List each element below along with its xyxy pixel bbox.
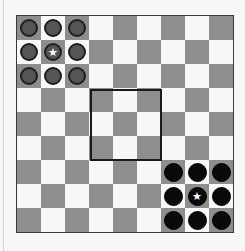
board-cell-r6-c7[interactable] <box>185 160 209 184</box>
gray-piece[interactable] <box>68 43 86 61</box>
board-cell-r3-c6[interactable] <box>161 88 185 112</box>
board-cell-r7-c7[interactable]: ★ <box>185 184 209 208</box>
board-cell-r3-c2[interactable] <box>65 88 89 112</box>
board-cell-r4-c0[interactable] <box>17 112 41 136</box>
window-edge-line <box>3 0 4 251</box>
black-piece-leader[interactable]: ★ <box>188 187 207 206</box>
board-cell-r0-c0[interactable] <box>17 16 41 40</box>
gray-piece[interactable] <box>44 19 62 37</box>
board-cell-r6-c3[interactable] <box>89 160 113 184</box>
gray-piece-leader[interactable]: ★ <box>44 43 62 61</box>
board-cell-r7-c8[interactable] <box>209 184 233 208</box>
board-cell-r5-c0[interactable] <box>17 136 41 160</box>
board-cell-r8-c8[interactable] <box>209 208 233 232</box>
black-piece[interactable] <box>212 187 231 206</box>
black-piece[interactable] <box>164 187 183 206</box>
board-cell-r2-c0[interactable] <box>17 64 41 88</box>
black-piece[interactable] <box>212 211 231 230</box>
gray-piece[interactable] <box>20 19 38 37</box>
board-cell-r6-c1[interactable] <box>41 160 65 184</box>
board-cell-r2-c4[interactable] <box>113 64 137 88</box>
black-piece[interactable] <box>188 211 207 230</box>
board-cell-r3-c1[interactable] <box>41 88 65 112</box>
board-cell-r6-c0[interactable] <box>17 160 41 184</box>
gray-piece[interactable] <box>44 67 62 85</box>
board-cell-r0-c1[interactable] <box>41 16 65 40</box>
board-cell-r7-c4[interactable] <box>113 184 137 208</box>
board-cell-r0-c8[interactable] <box>209 16 233 40</box>
gray-piece[interactable] <box>68 67 86 85</box>
board-cell-r1-c0[interactable] <box>17 40 41 64</box>
board-cell-r3-c8[interactable] <box>209 88 233 112</box>
board-cell-r5-c4[interactable] <box>113 136 137 160</box>
board-cell-r7-c3[interactable] <box>89 184 113 208</box>
board-cell-r3-c0[interactable] <box>17 88 41 112</box>
board-cell-r3-c3[interactable] <box>89 88 113 112</box>
board-cell-r7-c2[interactable] <box>65 184 89 208</box>
board-cell-r7-c1[interactable] <box>41 184 65 208</box>
board-cell-r4-c7[interactable] <box>185 112 209 136</box>
board-cell-r5-c1[interactable] <box>41 136 65 160</box>
board-cell-r4-c2[interactable] <box>65 112 89 136</box>
board-cell-r5-c3[interactable] <box>89 136 113 160</box>
board-cell-r2-c1[interactable] <box>41 64 65 88</box>
board-cell-r0-c6[interactable] <box>161 16 185 40</box>
board-cell-r7-c5[interactable] <box>137 184 161 208</box>
board-cell-r8-c5[interactable] <box>137 208 161 232</box>
black-piece[interactable] <box>212 163 231 182</box>
board-cell-r8-c3[interactable] <box>89 208 113 232</box>
board-cell-r6-c2[interactable] <box>65 160 89 184</box>
board-cell-r5-c2[interactable] <box>65 136 89 160</box>
board-cell-r0-c4[interactable] <box>113 16 137 40</box>
gray-piece[interactable] <box>68 19 86 37</box>
board-cell-r6-c6[interactable] <box>161 160 185 184</box>
gray-piece[interactable] <box>20 43 38 61</box>
board-cell-r5-c6[interactable] <box>161 136 185 160</box>
board-cell-r6-c4[interactable] <box>113 160 137 184</box>
board-cell-r4-c6[interactable] <box>161 112 185 136</box>
board-cell-r1-c5[interactable] <box>137 40 161 64</box>
board-cell-r8-c0[interactable] <box>17 208 41 232</box>
board-cell-r0-c2[interactable] <box>65 16 89 40</box>
board-cell-r2-c8[interactable] <box>209 64 233 88</box>
board-cell-r0-c5[interactable] <box>137 16 161 40</box>
board-cell-r1-c8[interactable] <box>209 40 233 64</box>
board-cell-r5-c7[interactable] <box>185 136 209 160</box>
board-cell-r4-c8[interactable] <box>209 112 233 136</box>
board-cell-r2-c2[interactable] <box>65 64 89 88</box>
board-cell-r3-c5[interactable] <box>137 88 161 112</box>
board-cell-r1-c2[interactable] <box>65 40 89 64</box>
board-cell-r2-c5[interactable] <box>137 64 161 88</box>
board-cell-r7-c0[interactable] <box>17 184 41 208</box>
gray-piece[interactable] <box>20 67 38 85</box>
board-cell-r8-c2[interactable] <box>65 208 89 232</box>
board-cell-r6-c5[interactable] <box>137 160 161 184</box>
board-cell-r2-c3[interactable] <box>89 64 113 88</box>
board-cell-r1-c3[interactable] <box>89 40 113 64</box>
board-cell-r3-c7[interactable] <box>185 88 209 112</box>
board-cell-r3-c4[interactable] <box>113 88 137 112</box>
black-piece[interactable] <box>188 163 207 182</box>
board-cell-r8-c4[interactable] <box>113 208 137 232</box>
board-cell-r1-c6[interactable] <box>161 40 185 64</box>
board-cell-r2-c6[interactable] <box>161 64 185 88</box>
board-cell-r5-c5[interactable] <box>137 136 161 160</box>
board-cell-r8-c6[interactable] <box>161 208 185 232</box>
board-cell-r2-c7[interactable] <box>185 64 209 88</box>
board-cell-r1-c1[interactable]: ★ <box>41 40 65 64</box>
board-cell-r1-c4[interactable] <box>113 40 137 64</box>
board-cell-r1-c7[interactable] <box>185 40 209 64</box>
board-cell-r5-c8[interactable] <box>209 136 233 160</box>
board-cell-r4-c5[interactable] <box>137 112 161 136</box>
board-cell-r4-c3[interactable] <box>89 112 113 136</box>
board-cell-r0-c3[interactable] <box>89 16 113 40</box>
board-cell-r8-c7[interactable] <box>185 208 209 232</box>
black-piece[interactable] <box>164 163 183 182</box>
board-cell-r4-c1[interactable] <box>41 112 65 136</box>
board-cell-r6-c8[interactable] <box>209 160 233 184</box>
board-cell-r4-c4[interactable] <box>113 112 137 136</box>
black-piece[interactable] <box>164 211 183 230</box>
board-cell-r7-c6[interactable] <box>161 184 185 208</box>
board-cell-r0-c7[interactable] <box>185 16 209 40</box>
board-cell-r8-c1[interactable] <box>41 208 65 232</box>
